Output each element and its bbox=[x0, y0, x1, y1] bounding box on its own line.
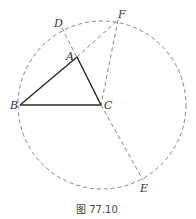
segment-c-e bbox=[101, 105, 143, 180]
label-c: C bbox=[104, 99, 113, 112]
label-d: D bbox=[53, 17, 63, 30]
segment-a-b bbox=[20, 57, 77, 105]
label-f: F bbox=[117, 8, 126, 21]
segment-c-a bbox=[77, 57, 101, 105]
geometry-figure: A B C D E F 图 77.10 bbox=[0, 0, 196, 219]
label-e: E bbox=[139, 182, 148, 195]
figure-caption: 图 77.10 bbox=[76, 204, 118, 215]
label-a: A bbox=[65, 50, 74, 63]
segment-a-f bbox=[77, 20, 118, 57]
label-b: B bbox=[9, 99, 18, 112]
